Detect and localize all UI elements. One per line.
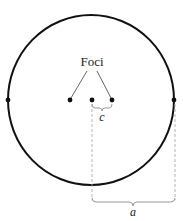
a-label: a: [130, 205, 136, 219]
right-vertex-point: [172, 98, 177, 103]
left-focus-point: [68, 98, 73, 103]
center-point: [90, 98, 95, 103]
right-focus-point: [110, 98, 115, 103]
left-vertex-point: [6, 98, 11, 103]
foci-label: Foci: [80, 54, 104, 69]
ellipse-foci-diagram: Foci c a: [0, 0, 183, 221]
foci-leader-right: [97, 71, 111, 98]
foci-leader-left: [71, 71, 87, 98]
c-label: c: [99, 110, 105, 124]
